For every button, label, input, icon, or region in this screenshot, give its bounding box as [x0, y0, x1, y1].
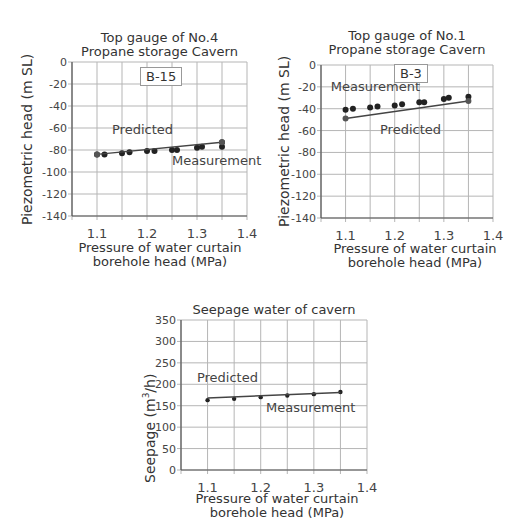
- predicted-line: [208, 392, 341, 398]
- y-tick-label: 100: [155, 421, 176, 434]
- y-tick-label: 150: [155, 400, 176, 413]
- x-axis-label: Pressure of water curtain borehole head …: [157, 492, 397, 520]
- y-tick-label: 0: [169, 464, 176, 477]
- y-tick-label: 350: [155, 314, 176, 327]
- measurement-point: [285, 393, 289, 397]
- annotation-measurement: Measurement: [266, 400, 355, 415]
- y-tick-label: 200: [155, 378, 176, 391]
- y-tick-label: 300: [155, 335, 176, 348]
- chart-seepage: Seepage water of cavern Seepage (m3/h) 3…: [0, 0, 523, 522]
- y-tick-label: 50: [162, 443, 176, 456]
- y-tick-label: 250: [155, 357, 176, 370]
- plot-area: 3503002502001501005001.11.21.31.4Predict…: [0, 0, 523, 522]
- annotation-predicted: Predicted: [197, 370, 258, 385]
- x-label-line-2: borehole head (MPa): [157, 506, 397, 520]
- x-label-line-1: Pressure of water curtain: [157, 492, 397, 506]
